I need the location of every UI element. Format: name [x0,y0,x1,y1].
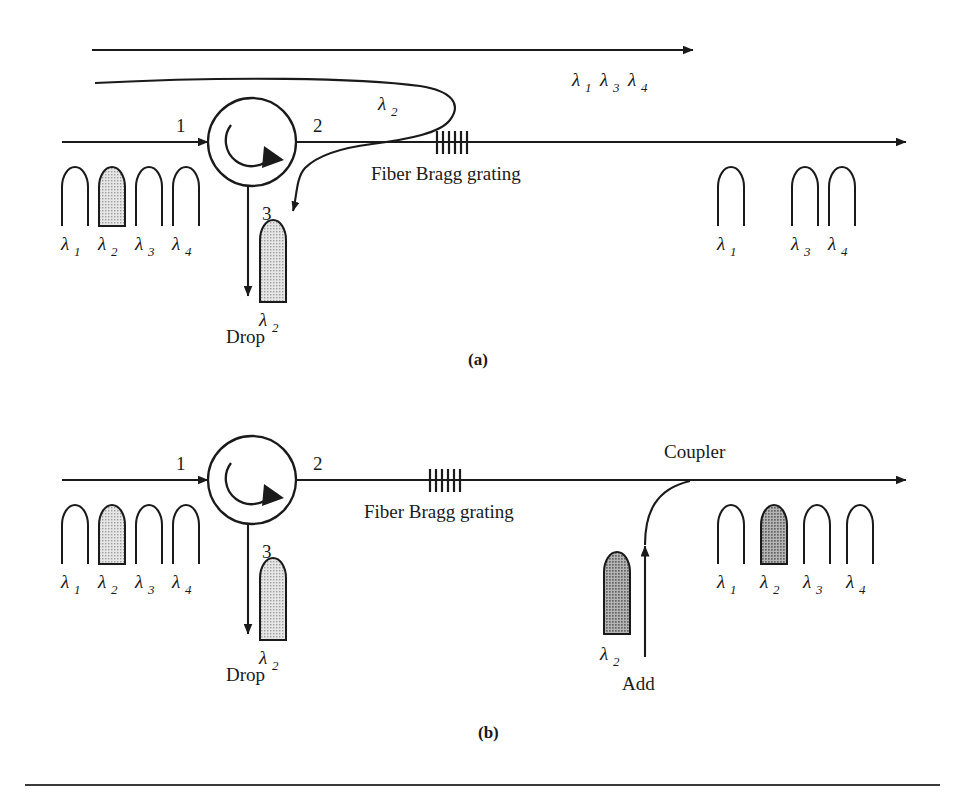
svg-text:4: 4 [185,582,192,597]
svg-text:4: 4 [641,80,648,95]
svg-text:λ: λ [571,69,580,90]
pulse-lambda1-out-b: λ1 [716,505,744,597]
panel-a-caption: (a) [468,350,488,369]
pulse-lambda2-in-a: λ2 [97,167,125,259]
output-pulse-group-b: λ1 λ2 λ3 λ4 [716,505,873,597]
input-pulse-group-a: λ1 λ2 λ3 λ4 [60,167,199,259]
port-1-label-b: 1 [176,453,186,474]
svg-text:λ: λ [716,571,725,592]
svg-text:λ: λ [97,233,106,254]
svg-text:λ: λ [134,233,143,254]
svg-text:λ: λ [599,69,608,90]
svg-text:3: 3 [815,582,823,597]
input-pulse-group-b: λ1 λ2 λ3 λ4 [60,505,199,597]
svg-text:2: 2 [613,654,620,669]
pulse-lambda3-in-a: λ3 [134,167,162,259]
svg-text:λ: λ [377,93,386,114]
svg-text:λ: λ [627,69,636,90]
panel-b: 1 2 3 Drop Fiber Bragg grating Coupler A… [60,436,906,742]
svg-text:λ: λ [171,571,180,592]
drop-pulse-b: λ2 [258,558,286,673]
svg-text:λ: λ [258,647,267,668]
reflected-lambda2-label-a: λ2 [377,93,398,119]
panel-a: λ1 λ3 λ4 λ2 1 2 3 Drop [60,50,906,369]
pulse-lambda3-in-b: λ3 [134,505,162,597]
port-1-label-a: 1 [176,115,186,136]
svg-text:1: 1 [585,80,592,95]
svg-text:λ: λ [716,233,725,254]
svg-text:2: 2 [272,320,279,335]
svg-text:2: 2 [111,244,118,259]
pulse-lambda4-in-b: λ4 [171,505,199,597]
svg-text:λ: λ [60,233,69,254]
svg-text:1: 1 [730,244,737,259]
add-pulse-b: λ2 [599,552,630,669]
panel-b-caption: (b) [478,723,499,742]
pulse-lambda1-in-b: λ1 [60,505,88,597]
svg-text:λ: λ [134,571,143,592]
svg-text:λ: λ [845,571,854,592]
svg-text:λ: λ [599,643,608,664]
pulse-lambda2-out-b: λ2 [759,505,787,597]
svg-text:4: 4 [859,582,866,597]
output-pulse-group-a: λ1 λ3 λ4 [716,167,855,259]
reflected-lambda2-path-a [95,79,455,211]
svg-text:λ: λ [759,571,768,592]
svg-text:1: 1 [74,244,81,259]
pulse-lambda1-in-a: λ1 [60,167,88,259]
svg-text:2: 2 [773,582,780,597]
coupler-path-b [645,481,690,545]
svg-text:2: 2 [391,104,398,119]
svg-text:3: 3 [147,244,155,259]
svg-text:λ: λ [97,571,106,592]
coupler-label-b: Coupler [664,441,726,462]
diagram-svg: λ1 λ3 λ4 λ2 1 2 3 Drop [0,0,962,792]
add-label-b: Add [622,673,655,694]
svg-text:λ: λ [827,233,836,254]
figure-container: λ1 λ3 λ4 λ2 1 2 3 Drop [0,0,962,792]
svg-text:λ: λ [60,571,69,592]
pulse-lambda3-out-b: λ3 [802,505,830,597]
svg-text:2: 2 [111,582,118,597]
svg-text:4: 4 [841,244,848,259]
drop-pulse-a: λ2 [258,220,286,335]
svg-text:3: 3 [803,244,811,259]
grating-label-a: Fiber Bragg grating [371,163,521,184]
pulse-lambda4-out-b: λ4 [845,505,873,597]
grating-label-b: Fiber Bragg grating [364,501,514,522]
svg-text:1: 1 [730,582,737,597]
optical-circulator-b[interactable] [208,436,296,524]
port-2-label-b: 2 [313,453,323,474]
svg-text:3: 3 [612,80,620,95]
svg-text:λ: λ [171,233,180,254]
svg-text:λ: λ [790,233,799,254]
through-wavelengths-label-a: λ1 λ3 λ4 [571,69,648,95]
svg-text:3: 3 [147,582,155,597]
svg-text:2: 2 [272,658,279,673]
optical-circulator-a[interactable] [208,98,296,186]
port-2-label-a: 2 [313,115,323,136]
pulse-lambda1-out-a: λ1 [716,167,744,259]
svg-text:1: 1 [74,582,81,597]
svg-text:4: 4 [185,244,192,259]
pulse-lambda4-out-a: λ4 [827,167,855,259]
svg-text:λ: λ [802,571,811,592]
pulse-lambda2-in-b: λ2 [97,505,125,597]
pulse-lambda4-in-a: λ4 [171,167,199,259]
pulse-lambda3-out-a: λ3 [790,167,818,259]
svg-text:λ: λ [258,309,267,330]
